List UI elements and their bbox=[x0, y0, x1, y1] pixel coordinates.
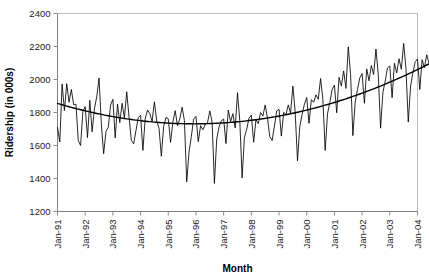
x-tick-label: Jan-01 bbox=[329, 220, 340, 249]
y-tick-label: 2200 bbox=[29, 41, 50, 52]
x-tick-label: Jan-94 bbox=[135, 220, 146, 249]
x-tick-label: Jan-97 bbox=[218, 220, 229, 249]
x-tick-label: Jan-03 bbox=[384, 220, 395, 249]
x-tick-label: Jan-92 bbox=[80, 220, 91, 249]
y-axis-title: Ridership (in 000s) bbox=[4, 68, 15, 157]
y-tick-label: 1200 bbox=[29, 206, 50, 217]
y-tick-label: 1600 bbox=[29, 140, 50, 151]
x-tick-label: Jan-02 bbox=[357, 220, 368, 249]
y-tick-label: 2000 bbox=[29, 74, 50, 85]
chart-canvas: 1200140016001800200022002400Jan-91Jan-92… bbox=[0, 0, 429, 279]
x-axis-title: Month bbox=[223, 263, 253, 274]
ridership-chart: 1200140016001800200022002400Jan-91Jan-92… bbox=[0, 0, 429, 279]
y-tick-label: 1400 bbox=[29, 173, 50, 184]
x-tick-label: Jan-95 bbox=[163, 220, 174, 249]
y-tick-label: 1800 bbox=[29, 107, 50, 118]
x-tick-label: Jan-91 bbox=[52, 220, 63, 249]
x-tick-label: Jan-93 bbox=[107, 220, 118, 249]
ridership-series-line bbox=[58, 43, 429, 183]
plot-area-border bbox=[58, 14, 418, 212]
x-tick-label: Jan-04 bbox=[412, 220, 423, 249]
x-tick-label: Jan-99 bbox=[274, 220, 285, 249]
x-tick-label: Jan-00 bbox=[301, 220, 312, 249]
x-tick-label: Jan-98 bbox=[246, 220, 257, 249]
x-tick-label: Jan-96 bbox=[190, 220, 201, 249]
y-tick-label: 2400 bbox=[29, 8, 50, 19]
